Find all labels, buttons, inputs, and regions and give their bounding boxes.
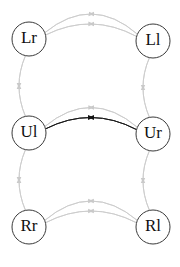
graph-edge-Lr-to-Ul-tail <box>19 86 25 116</box>
graph-edge-Rl-to-Ur-tail <box>143 151 149 181</box>
graph-edge-Ur-to-Ul-tail <box>45 107 91 126</box>
graph-node-ur[interactable]: Ur <box>136 117 170 151</box>
graph-node-ll[interactable]: Ll <box>136 24 170 58</box>
graph-edge-Rr-to-Ul <box>19 180 25 210</box>
graph-node-rr[interactable]: Rr <box>12 210 46 244</box>
graph-edge-Rr-to-Rl <box>45 201 91 220</box>
graph-edge-Ur-to-Ul-tail <box>45 117 91 128</box>
graph-edge-Ul-to-Ur <box>45 117 91 128</box>
node-label-rr: Rr <box>21 216 38 235</box>
graph-edge-Ur-to-Rl <box>143 151 149 181</box>
graph-edge-Ur-to-Rl-tail <box>143 181 149 211</box>
graph-edge-Ur-to-Ll <box>143 88 149 118</box>
graph-edge-Rl-to-Ur <box>143 181 149 211</box>
graph-edge-Ul-to-Rr <box>19 150 25 180</box>
graph-edge-Lr-to-Ll <box>45 14 92 33</box>
node-label-rl: Rl <box>145 216 161 235</box>
node-label-lr: Lr <box>21 28 37 47</box>
graph-edge-Ul-to-Ur <box>45 107 91 126</box>
graph-node-lr[interactable]: Lr <box>12 22 46 56</box>
graph-edge-Rr-to-Rl <box>45 211 91 223</box>
node-label-ur: Ur <box>144 123 162 142</box>
graph-edge-Rl-to-Rr <box>91 211 137 223</box>
graph-edge-Rr-to-Ul-tail <box>19 150 25 180</box>
graph-edge-Rl-to-Rr-tail <box>45 201 91 220</box>
graph-edge-Lr-to-Ul <box>19 56 25 86</box>
graph-edge-Ll-to-Ur-tail <box>143 88 149 118</box>
graph-edge-Ul-to-Lr-tail <box>19 56 25 86</box>
graph-edge-Rl-to-Rr <box>91 201 137 220</box>
graph-edge-Rl-to-Rr-tail <box>45 211 91 223</box>
graph-edge-Rr-to-Rl-tail <box>91 201 137 220</box>
graph-diagram-canvas: LrLlUlUrRrRl <box>0 0 180 267</box>
graph-edge-Rr-to-Rl-tail <box>91 211 137 223</box>
graph-edge-Lr-to-Ll <box>46 24 92 35</box>
graph-edge-Ur-to-Ul <box>91 118 136 130</box>
graph-edge-Ul-to-Lr <box>19 86 25 116</box>
graph-edge-Ll-to-Lr-tail <box>45 14 92 33</box>
graph-edge-Ll-to-Ur <box>143 58 149 88</box>
graph-edge-Ul-to-Ur-tail <box>91 118 136 130</box>
graph-edge-Ll-to-Lr <box>91 24 136 36</box>
graph-edge-Ur-to-Ll-tail <box>143 58 149 88</box>
graph-edge-Ll-to-Lr-tail <box>46 24 92 35</box>
node-label-ul: Ul <box>21 122 38 141</box>
node-label-ll: Ll <box>145 30 160 49</box>
graph-svg: LrLlUlUrRrRl <box>0 0 180 267</box>
graph-node-rl[interactable]: Rl <box>136 210 170 244</box>
graph-edge-Lr-to-Ll-tail <box>91 24 136 36</box>
graph-edge-Ul-to-Rr-tail <box>19 180 25 210</box>
graph-node-ul[interactable]: Ul <box>12 116 46 150</box>
